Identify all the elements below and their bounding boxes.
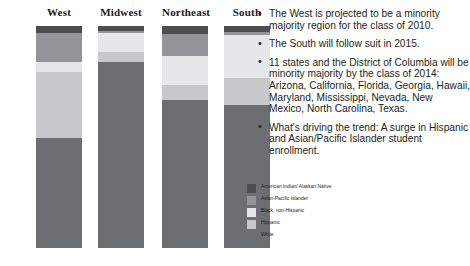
minority-majority-infographic: WestMidwestNortheastSouth The West is pr… xyxy=(0,0,470,266)
stacked-bar xyxy=(98,26,144,248)
bar-segment xyxy=(162,100,208,248)
stacked-bar xyxy=(162,26,208,248)
bar-label: Midwest xyxy=(98,6,144,18)
legend-label: Asian-Pacific Islander xyxy=(261,195,308,201)
bar-segment xyxy=(98,52,144,62)
legend-row: Hispanic xyxy=(247,219,397,229)
legend-swatch-icon xyxy=(247,208,256,217)
legend-swatch-icon xyxy=(247,232,256,241)
legend-label: American Indian/ Alaskan Native xyxy=(261,183,331,189)
bar-segment xyxy=(162,56,208,85)
bullet-list: The West is projected to be a minority m… xyxy=(258,8,470,164)
bullet-item: 11 states and the District of Columbia w… xyxy=(258,57,470,115)
bar-group-midwest: Midwest xyxy=(98,0,144,266)
legend-swatch-icon xyxy=(247,196,256,205)
bar-segment xyxy=(36,62,82,72)
bar-segment xyxy=(36,72,82,138)
legend-row: Black, non-Hispanic xyxy=(247,207,397,217)
bullet-item: The West is projected to be a minority m… xyxy=(258,8,470,31)
bullet-item: What's driving the trend: A surge in His… xyxy=(258,122,470,157)
legend-row: White xyxy=(247,231,397,241)
bar-group-northeast: Northeast xyxy=(162,0,208,266)
bar-segment xyxy=(98,62,144,248)
bar-segment xyxy=(98,33,144,52)
bar-segment xyxy=(36,138,82,248)
chart-legend: American Indian/ Alaskan NativeAsian-Pac… xyxy=(247,183,397,243)
content-column: The West is projected to be a minority m… xyxy=(258,0,470,266)
bar-segment xyxy=(36,33,82,62)
legend-label: Black, non-Hispanic xyxy=(261,207,304,213)
legend-row: American Indian/ Alaskan Native xyxy=(247,183,397,193)
stacked-bar xyxy=(36,26,82,248)
bar-group-west: West xyxy=(36,0,82,266)
legend-swatch-icon xyxy=(247,220,256,229)
legend-label: White xyxy=(261,231,274,237)
bar-segment xyxy=(162,34,208,56)
legend-swatch-icon xyxy=(247,184,256,193)
stacked-bar-chart: WestMidwestNortheastSouth xyxy=(0,0,255,266)
bar-segment xyxy=(162,26,208,34)
bar-segment xyxy=(36,26,82,33)
bullet-item: The South will follow suit in 2015. xyxy=(258,38,470,50)
bar-segment xyxy=(162,85,208,100)
bar-label: Northeast xyxy=(162,6,208,18)
bar-label: West xyxy=(36,6,82,18)
legend-row: Asian-Pacific Islander xyxy=(247,195,397,205)
legend-label: Hispanic xyxy=(261,219,280,225)
